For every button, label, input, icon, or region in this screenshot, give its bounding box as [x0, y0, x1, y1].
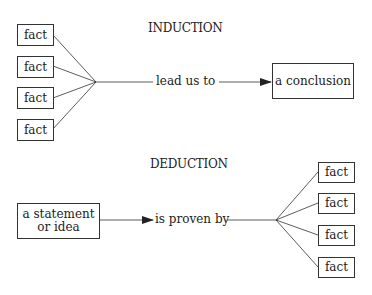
- deduction-fact-box: fact: [318, 225, 355, 246]
- induction-fact-box: fact: [17, 119, 54, 141]
- deduction-fact-box: fact: [318, 193, 355, 214]
- induction-fact-box: fact: [17, 87, 54, 109]
- induction-fact-box: fact: [17, 56, 54, 78]
- statement-box: a statement or idea: [17, 203, 100, 239]
- induction-fact-box: fact: [17, 24, 54, 46]
- induction-connector-label: lead us to: [156, 74, 215, 88]
- induction-deduction-diagram: INDUCTION fact fact fact fact lead us to…: [0, 0, 372, 295]
- deduction-connector-label: is proven by: [155, 212, 229, 226]
- deduction-fact-box: fact: [318, 257, 355, 278]
- connector-lines: [0, 0, 372, 295]
- deduction-fact-box: fact: [318, 162, 355, 183]
- conclusion-box: a conclusion: [272, 63, 354, 99]
- induction-title: INDUCTION: [148, 21, 223, 35]
- deduction-title: DEDUCTION: [150, 157, 228, 171]
- statement-line-2: or idea: [37, 221, 80, 234]
